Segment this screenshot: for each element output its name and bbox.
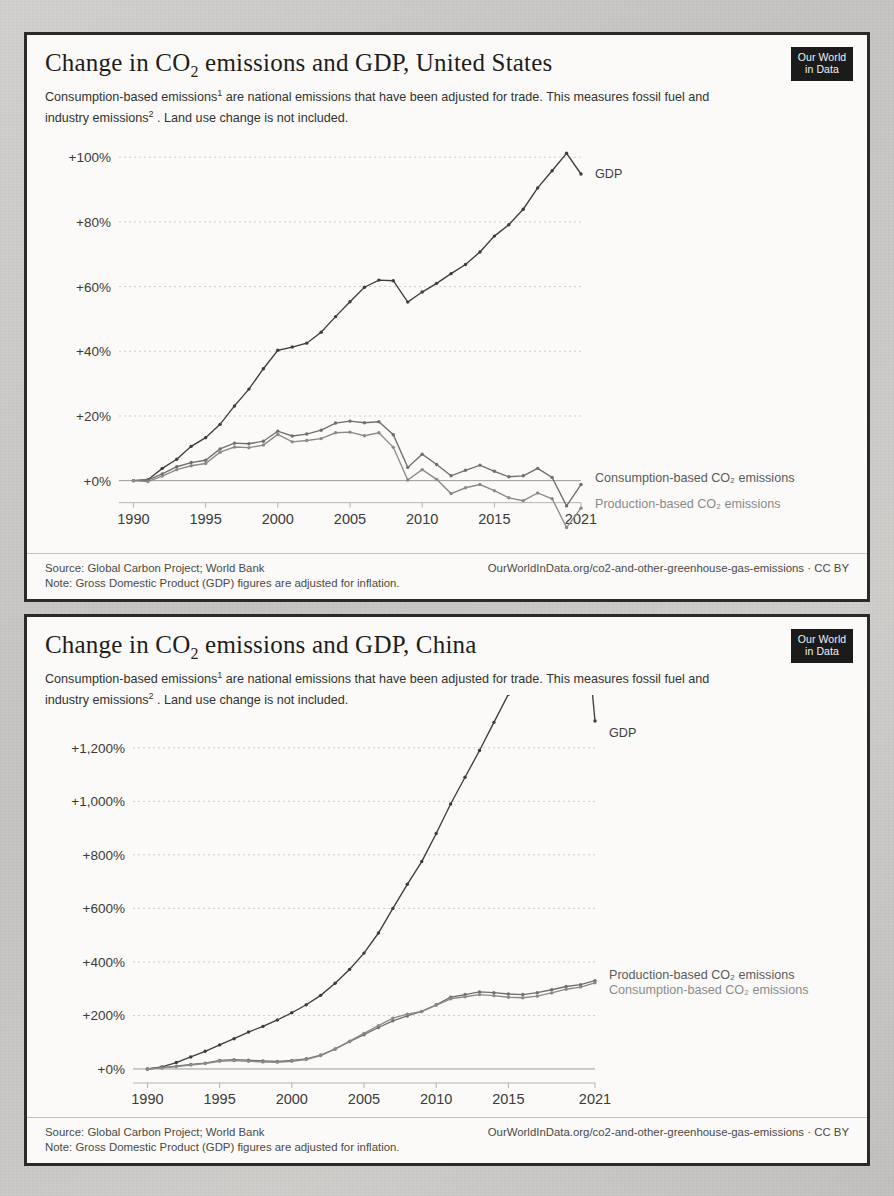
series-data-point — [478, 993, 481, 996]
series-data-point — [536, 991, 539, 994]
series-data-point — [348, 419, 351, 422]
series-data-point — [435, 463, 438, 466]
series-data-point — [406, 478, 409, 481]
series-data-point — [579, 506, 582, 509]
series-data-point — [579, 483, 582, 486]
series-data-point — [521, 993, 524, 996]
title-subscript: 2 — [190, 63, 198, 80]
series-data-point — [161, 467, 164, 470]
series-data-point — [218, 1060, 221, 1063]
x-axis-tick-label: 1990 — [117, 511, 149, 527]
series-data-point — [434, 832, 437, 835]
x-axis-tick-label: 2015 — [492, 1091, 524, 1107]
series-data-point — [146, 1067, 149, 1070]
footer-url-cn[interactable]: OurWorldInData.org/co2-and-other-greenho… — [488, 1126, 849, 1138]
series-data-point — [449, 474, 452, 477]
y-axis-tick-label: +1,000% — [71, 794, 125, 809]
x-axis-tick-label: 2000 — [262, 511, 294, 527]
series-data-point — [232, 1037, 235, 1040]
footer-url-us[interactable]: OurWorldInData.org/co2-and-other-greenho… — [488, 562, 849, 574]
y-axis-tick-label: +200% — [83, 1008, 125, 1023]
series-label-production-based-co-emissions: Production-based CO₂ emissions — [609, 968, 794, 982]
series-data-point — [449, 997, 452, 1000]
logo-line-2: in Data — [791, 63, 853, 75]
series-data-point — [564, 988, 567, 991]
series-line-production-based-co-emissions — [147, 981, 595, 1069]
series-data-point — [348, 300, 351, 303]
series-data-point — [464, 486, 467, 489]
series-data-point — [348, 968, 351, 971]
series-data-point — [334, 315, 337, 318]
series-data-point — [291, 345, 294, 348]
series-data-point — [478, 483, 481, 486]
series-data-point — [305, 341, 308, 344]
chart-footer-us: Source: Global Carbon Project; World Ban… — [27, 553, 867, 599]
series-data-point — [204, 436, 207, 439]
x-axis-tick-label: 2000 — [276, 1091, 308, 1107]
series-data-point — [507, 996, 510, 999]
series-data-point — [565, 526, 568, 529]
series-data-point — [319, 330, 322, 333]
series-data-point — [435, 282, 438, 285]
series-data-point — [377, 1024, 380, 1027]
series-data-point — [247, 387, 250, 390]
series-data-point — [362, 951, 365, 954]
series-data-point — [305, 1003, 308, 1006]
x-axis-tick-label: 2015 — [478, 511, 510, 527]
series-data-point — [262, 367, 265, 370]
series-data-point — [391, 907, 394, 910]
y-axis-tick-label: +600% — [83, 901, 125, 916]
series-data-point — [319, 1054, 322, 1057]
series-label-production-based-co-emissions: Production-based CO₂ emissions — [595, 497, 780, 511]
owid-logo: Our World in Data — [791, 47, 853, 81]
y-axis-tick-label: +400% — [83, 955, 125, 970]
series-data-point — [406, 300, 409, 303]
series-data-point — [363, 434, 366, 437]
series-data-point — [420, 290, 423, 293]
title-prefix: Change in CO — [45, 49, 190, 76]
chart-panel-united-states: Change in CO2 emissions and GDP, United … — [24, 32, 870, 602]
series-data-point — [463, 995, 466, 998]
series-data-point — [492, 994, 495, 997]
series-data-point — [420, 452, 423, 455]
y-axis-tick-label: +800% — [83, 848, 125, 863]
series-data-point — [175, 1065, 178, 1068]
series-data-point — [392, 433, 395, 436]
series-data-point — [406, 883, 409, 886]
series-data-point — [233, 441, 236, 444]
series-data-point — [449, 272, 452, 275]
chart-footer-cn: Source: Global Carbon Project; World Ban… — [27, 1117, 867, 1163]
y-axis-tick-label: +80% — [76, 215, 111, 230]
series-data-point — [420, 1010, 423, 1013]
series-data-point — [189, 445, 192, 448]
series-data-point — [218, 450, 221, 453]
series-data-point — [189, 461, 192, 464]
series-data-point — [247, 1030, 250, 1033]
series-data-point — [305, 432, 308, 435]
series-data-point — [363, 286, 366, 289]
line-chart-us: +0%+20%+40%+60%+80%+100%1990199520002005… — [27, 123, 870, 573]
y-axis-tick-label: +0% — [84, 474, 111, 489]
series-data-point — [233, 445, 236, 448]
logo-line-1: Our World — [791, 51, 853, 63]
series-data-point — [464, 263, 467, 266]
series-data-point — [218, 447, 221, 450]
series-data-point — [392, 446, 395, 449]
series-data-point — [507, 223, 510, 226]
series-data-point — [464, 469, 467, 472]
series-data-point — [550, 476, 553, 479]
series-data-point — [377, 431, 380, 434]
y-axis-tick-label: +60% — [76, 280, 111, 295]
series-data-point — [247, 1060, 250, 1063]
series-data-point — [319, 437, 322, 440]
series-data-point — [493, 234, 496, 237]
series-data-point — [550, 991, 553, 994]
x-axis-tick-label: 1990 — [131, 1091, 163, 1107]
series-data-point — [262, 439, 265, 442]
series-data-point — [204, 462, 207, 465]
series-data-point — [362, 1032, 365, 1035]
page-title-cn: Change in CO2 emissions and GDP, China — [45, 631, 849, 663]
series-data-point — [333, 982, 336, 985]
series-data-point — [507, 496, 510, 499]
title-suffix: emissions and GDP, United States — [199, 49, 553, 76]
